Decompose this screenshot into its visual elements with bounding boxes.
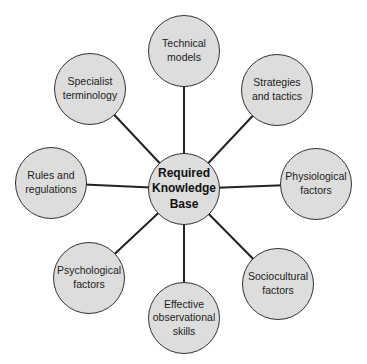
node-physiological-factors-label: Physiological factors: [285, 170, 346, 197]
node-psychological-factors: Psychological factors: [53, 242, 125, 314]
node-rules-regulations: Rules and regulations: [15, 147, 87, 219]
node-effective-observational-skills: Effective observational skills: [148, 282, 220, 354]
node-strategies-tactics: Strategies and tactics: [241, 54, 313, 126]
node-sociocultural-factors: Sociocultural factors: [242, 248, 314, 320]
node-specialist-terminology: Specialist terminology: [54, 53, 126, 125]
knowledge-base-diagram: Technical modelsStrategies and tacticsPh…: [0, 0, 367, 364]
node-required-knowledge-base-label: Required Knowledge Base: [152, 166, 216, 213]
node-specialist-terminology-label: Specialist terminology: [63, 75, 117, 102]
node-rules-regulations-label: Rules and regulations: [25, 169, 76, 196]
node-required-knowledge-base: Required Knowledge Base: [148, 153, 220, 225]
node-strategies-tactics-label: Strategies and tactics: [252, 76, 302, 103]
node-sociocultural-factors-label: Sociocultural factors: [248, 270, 308, 297]
node-technical-models: Technical models: [148, 15, 220, 87]
node-effective-observational-skills-label: Effective observational skills: [153, 298, 215, 339]
node-technical-models-label: Technical models: [162, 37, 206, 64]
node-psychological-factors-label: Psychological factors: [57, 264, 121, 291]
node-physiological-factors: Physiological factors: [280, 148, 352, 220]
